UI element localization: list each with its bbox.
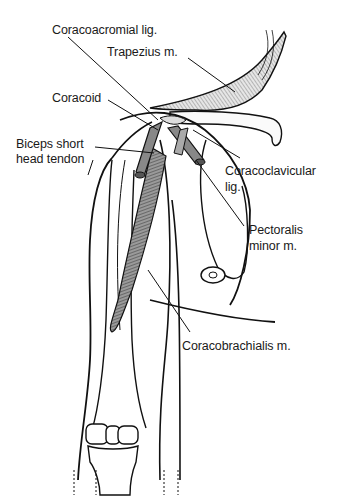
anatomy-diagram: Coracoacromial lig. Trapezius m. Coracoi… <box>0 0 340 499</box>
label-coracoclavicular-ligament-line1: Coracoclavicular <box>225 164 316 179</box>
label-coracoid: Coracoid <box>52 91 101 106</box>
trapezius-muscle <box>150 30 286 110</box>
label-coracoacromial-ligament: Coracoacromial lig. <box>52 23 157 38</box>
elbow-joint <box>74 424 178 495</box>
label-pectoralis-minor-line1: Pectoralis <box>249 223 303 238</box>
label-coracoclavicular-ligament-line2: lig. <box>225 180 241 195</box>
label-biceps-short-head-tendon-line1: Biceps short <box>16 137 84 152</box>
label-biceps-short-head-tendon-line2: head tendon <box>16 152 84 167</box>
label-coracobrachialis-muscle: Coracobrachialis m. <box>182 339 291 354</box>
label-trapezius-muscle: Trapezius m. <box>107 45 178 60</box>
label-pectoralis-minor-line2: minor m. <box>249 239 297 254</box>
